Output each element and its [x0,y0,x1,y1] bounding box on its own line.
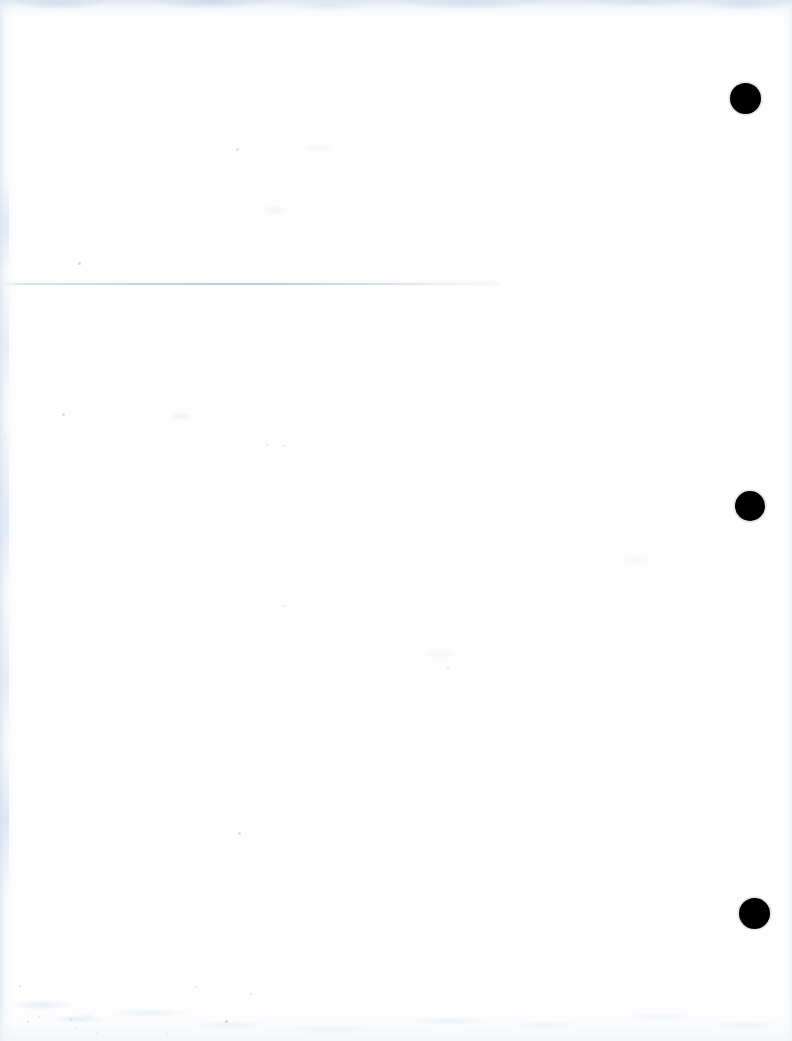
registration-dot-2 [735,491,765,521]
scanned-page [0,0,792,1041]
registration-dot-1 [730,83,761,114]
registration-dot-3 [739,898,770,929]
paper-surface [0,0,792,1041]
